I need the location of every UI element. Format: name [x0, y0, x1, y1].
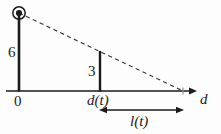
- shadow-length-geometry-diagram: 6 3 0 d(t) d l(t): [0, 0, 221, 134]
- lamp-marker-dot: [16, 10, 22, 16]
- axis-variable-label: d: [200, 92, 208, 107]
- ground-axis-arrowhead: [189, 88, 197, 95]
- shadow-variable-label: l(t): [130, 114, 148, 129]
- distance-variable-label: d(t): [87, 93, 109, 108]
- diagram-canvas: [0, 0, 221, 134]
- shadow-length-arrowhead-right: [176, 107, 184, 113]
- object-height-label: 3: [88, 64, 96, 79]
- origin-label: 0: [14, 94, 22, 109]
- lamp-height-label: 6: [8, 45, 16, 60]
